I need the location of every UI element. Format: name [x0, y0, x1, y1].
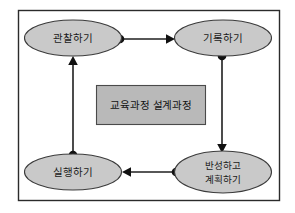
node-reflect-plan[interactable]: 반성하고 계획하기	[175, 151, 272, 193]
center-process-box: 교육과정 설계과정	[97, 86, 206, 125]
node-implement[interactable]: 실행하기	[25, 154, 122, 190]
edge-reflect-plan-to-implement	[122, 167, 180, 177]
edge-implement-to-observe	[68, 56, 78, 159]
node-reflect-plan-label-line2: 계획하기	[205, 174, 240, 185]
arrowhead-right-icon	[166, 34, 175, 44]
edge-record-to-reflect-plan	[217, 52, 227, 153]
node-observe[interactable]: 관찰하기	[25, 20, 122, 56]
edge-observe-to-record	[116, 34, 175, 44]
curriculum-design-cycle-diagram: 관찰하기 기록하기 반성하고 계획하기 실행하기 교육과정 설계과정	[0, 0, 295, 213]
node-implement-label: 실행하기	[53, 166, 92, 178]
arrowhead-left-icon	[122, 167, 131, 177]
node-shape	[175, 151, 272, 193]
arrowhead-up-icon	[68, 56, 78, 65]
node-record-label: 기록하기	[203, 32, 242, 44]
node-observe-label: 관찰하기	[53, 32, 92, 44]
node-record[interactable]: 기록하기	[175, 20, 272, 56]
center-box-label: 교육과정 설계과정	[110, 99, 192, 111]
diagram-canvas: 관찰하기 기록하기 반성하고 계획하기 실행하기 교육과정 설계과정	[0, 0, 295, 213]
node-reflect-plan-label-line1: 반성하고	[205, 160, 240, 171]
